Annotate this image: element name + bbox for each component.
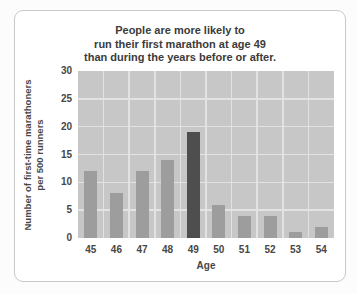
x-tick-50: 50 [206, 244, 232, 256]
y-tick-25: 25 [48, 93, 72, 105]
x-tick-45: 45 [78, 244, 104, 256]
x-tick-54: 54 [308, 244, 334, 256]
y-tick-20: 20 [48, 121, 72, 133]
x-tick-46: 46 [103, 244, 129, 256]
chart-title: People are more likely to run their firs… [15, 24, 345, 65]
y-tick-5: 5 [48, 204, 72, 216]
bar-age-46 [110, 193, 123, 238]
gridline-vertical-6 [231, 71, 233, 238]
gridline-vertical-5 [205, 71, 207, 238]
x-tick-49: 49 [180, 244, 206, 256]
y-tick-30: 30 [48, 65, 72, 77]
x-axis-label: Age [78, 260, 334, 271]
gridline-vertical-8 [282, 71, 284, 238]
y-tick-0: 0 [48, 232, 72, 244]
x-tick-48: 48 [155, 244, 181, 256]
bar-age-45 [84, 171, 97, 238]
y-tick-10: 10 [48, 176, 72, 188]
gridline-vertical-4 [180, 71, 182, 238]
x-tick-53: 53 [283, 244, 309, 256]
bar-age-53 [289, 232, 302, 238]
x-tick-51: 51 [231, 244, 257, 256]
y-axis-label: Number of first-time marathoners per 500… [22, 65, 48, 245]
bar-age-52 [264, 216, 277, 238]
bar-age-49 [187, 132, 200, 238]
gridline-vertical-3 [154, 71, 156, 238]
gridline-vertical-9 [308, 71, 310, 238]
chart-card: People are more likely to run their firs… [14, 10, 346, 282]
x-tick-47: 47 [129, 244, 155, 256]
bar-age-51 [238, 216, 251, 238]
gridline-vertical-2 [128, 71, 130, 238]
gridline-vertical-7 [256, 71, 258, 238]
y-tick-15: 15 [48, 149, 72, 161]
plot-area [78, 71, 334, 238]
bar-age-48 [161, 160, 174, 238]
bar-age-50 [212, 205, 225, 238]
gridline-vertical-1 [103, 71, 105, 238]
x-tick-52: 52 [257, 244, 283, 256]
bar-age-54 [315, 227, 328, 238]
bar-age-47 [136, 171, 149, 238]
